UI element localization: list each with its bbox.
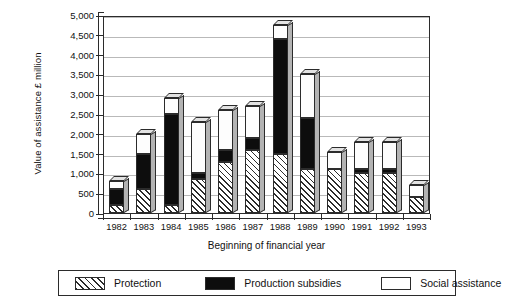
bar-side-face xyxy=(369,139,374,213)
x-tick-mark xyxy=(158,214,159,220)
bar-segment-social-assistance[interactable] xyxy=(218,110,233,150)
bar-side-face xyxy=(315,71,320,213)
bar-side-face xyxy=(288,22,293,213)
legend-label: Production subsidies xyxy=(244,277,341,289)
bar-group[interactable] xyxy=(218,16,233,213)
x-tick-mark xyxy=(267,214,268,220)
x-tick-label: 1993 xyxy=(399,222,433,232)
bar-group[interactable] xyxy=(191,16,206,213)
bar-segment-protection[interactable] xyxy=(300,169,315,213)
bar-segment-protection[interactable] xyxy=(382,173,397,213)
bar-side-face xyxy=(151,131,156,213)
bar-segment-protection[interactable] xyxy=(354,173,369,213)
bar-side-face xyxy=(397,139,402,213)
bar-segment-protection[interactable] xyxy=(218,162,233,213)
y-tick-label: 0 xyxy=(36,209,94,219)
bar-segment-protection[interactable] xyxy=(164,205,179,213)
bar-segment-protection[interactable] xyxy=(109,205,124,213)
y-axis-title: Value of assistance £ million xyxy=(32,19,43,209)
y-tick-label: 5,000 xyxy=(36,11,94,21)
bar-side-face xyxy=(424,182,429,213)
bar-group[interactable] xyxy=(273,16,288,213)
x-axis-title: Beginning of financial year xyxy=(103,240,430,251)
y-tick-label: 1,000 xyxy=(36,169,94,179)
x-tick-mark xyxy=(239,214,240,220)
hatch-swatch-icon xyxy=(75,277,105,290)
bar-segment-production-subsidies[interactable] xyxy=(273,39,288,154)
bar-segment-social-assistance[interactable] xyxy=(164,98,179,114)
legend-item-protection: Protection xyxy=(75,277,161,290)
bar-group[interactable] xyxy=(136,16,151,213)
bar-segment-production-subsidies[interactable] xyxy=(300,118,315,169)
bar-segment-production-subsidies[interactable] xyxy=(382,169,397,173)
bar-segment-social-assistance[interactable] xyxy=(245,106,260,138)
gridline xyxy=(104,76,429,77)
bar-side-face xyxy=(342,149,347,213)
bar-group[interactable] xyxy=(382,16,397,213)
bar-group[interactable] xyxy=(409,16,424,213)
legend-label: Protection xyxy=(114,277,161,289)
bar-segment-social-assistance[interactable] xyxy=(382,142,397,170)
y-tick-label: 4,500 xyxy=(36,31,94,41)
y-tick-label: 2,000 xyxy=(36,130,94,140)
gridline xyxy=(104,57,429,58)
y-tick-label: 4,000 xyxy=(36,51,94,61)
y-tick-label: 500 xyxy=(36,189,94,199)
x-tick-mark xyxy=(212,214,213,220)
white-swatch-icon xyxy=(381,277,411,290)
x-tick-mark xyxy=(103,214,104,220)
bar-segment-protection[interactable] xyxy=(245,150,260,213)
bar-group[interactable] xyxy=(300,16,315,213)
bar-side-face xyxy=(179,95,184,213)
bar-group[interactable] xyxy=(327,16,342,213)
y-tick-label: 1,500 xyxy=(36,150,94,160)
bar-segment-social-assistance[interactable] xyxy=(300,74,315,118)
bar-group[interactable] xyxy=(109,16,124,213)
y-tick-label: 3,000 xyxy=(36,90,94,100)
bar-segment-social-assistance[interactable] xyxy=(354,142,369,170)
bar-segment-social-assistance[interactable] xyxy=(109,181,124,189)
chart-legend: Protection Production subsidies Social a… xyxy=(58,270,456,296)
bar-segment-production-subsidies[interactable] xyxy=(164,114,179,205)
bar-segment-social-assistance[interactable] xyxy=(191,122,206,173)
bar-group[interactable] xyxy=(354,16,369,213)
bar-segment-production-subsidies[interactable] xyxy=(354,169,369,173)
x-tick-mark xyxy=(321,214,322,220)
bar-segment-production-subsidies[interactable] xyxy=(191,173,206,179)
bar-segment-protection[interactable] xyxy=(136,189,151,213)
black-swatch-icon xyxy=(205,277,235,290)
legend-label: Social assistance xyxy=(420,277,501,289)
bar-segment-protection[interactable] xyxy=(273,154,288,213)
x-tick-mark xyxy=(185,214,186,220)
bar-segment-protection[interactable] xyxy=(191,179,206,213)
bar-segment-social-assistance[interactable] xyxy=(136,134,151,154)
x-tick-mark xyxy=(403,214,404,220)
gridline xyxy=(104,96,429,97)
x-tick-mark xyxy=(294,214,295,220)
bar-segment-production-subsidies[interactable] xyxy=(136,154,151,190)
bar-segment-production-subsidies[interactable] xyxy=(245,138,260,150)
gridline xyxy=(104,17,429,18)
bar-side-face xyxy=(260,103,265,213)
x-axis: 1982198319841985198619871988198919901991… xyxy=(103,214,430,238)
bar-group[interactable] xyxy=(245,16,260,213)
bar-segment-protection[interactable] xyxy=(409,197,424,213)
bar-group[interactable] xyxy=(164,16,179,213)
x-tick-mark xyxy=(430,214,431,220)
x-tick-mark xyxy=(130,214,131,220)
bar-segment-social-assistance[interactable] xyxy=(409,185,424,197)
gridline xyxy=(104,37,429,38)
bar-segment-production-subsidies[interactable] xyxy=(109,189,124,205)
bar-side-face xyxy=(206,119,211,213)
gridline xyxy=(104,116,429,117)
bar-segment-social-assistance[interactable] xyxy=(327,152,342,170)
plot-area xyxy=(103,16,430,214)
bar-side-face xyxy=(124,178,129,213)
legend-item-production-subsidies: Production subsidies xyxy=(205,277,341,290)
bar-segment-social-assistance[interactable] xyxy=(273,25,288,39)
bar-segment-protection[interactable] xyxy=(327,169,342,213)
bar-segment-production-subsidies[interactable] xyxy=(218,150,233,162)
x-tick-mark xyxy=(348,214,349,220)
y-tick-label: 3,500 xyxy=(36,70,94,80)
